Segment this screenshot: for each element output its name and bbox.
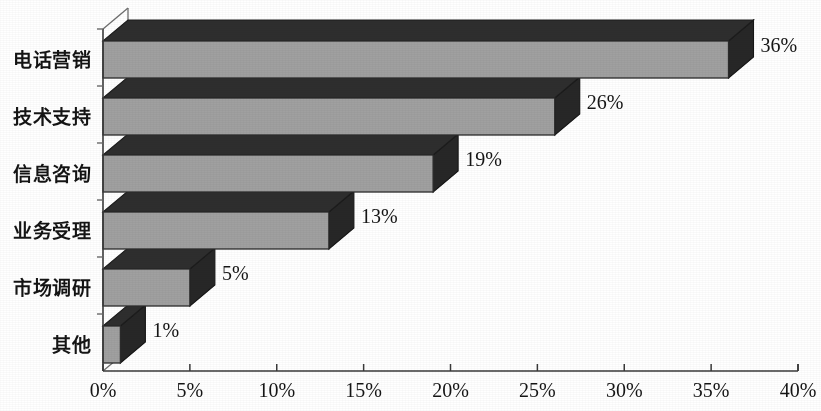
x-tick-label-5: 25% bbox=[519, 379, 556, 401]
value-label-0: 36% bbox=[761, 34, 798, 56]
bar-group bbox=[103, 134, 458, 192]
x-tick-label-6: 30% bbox=[606, 379, 643, 401]
chart-canvas: 电话营销技术支持信息咨询业务受理市场调研其他 36%26%19%13%5%1% … bbox=[0, 0, 821, 411]
category-label-0: 电话营销 bbox=[13, 49, 91, 71]
bar-top-face bbox=[103, 20, 754, 41]
value-label-3: 13% bbox=[361, 205, 398, 227]
bar-front-face bbox=[103, 155, 433, 192]
x-tick-label-0: 0% bbox=[90, 379, 117, 401]
category-label-4: 市场调研 bbox=[13, 277, 91, 299]
value-label-4: 5% bbox=[222, 262, 249, 284]
bar-group bbox=[103, 305, 145, 363]
bar-front-face bbox=[103, 269, 190, 306]
bar-group bbox=[103, 20, 754, 78]
category-label-2: 信息咨询 bbox=[13, 163, 91, 185]
x-tick-label-3: 15% bbox=[345, 379, 382, 401]
category-label-3: 业务受理 bbox=[13, 220, 91, 242]
x-tick-label-2: 10% bbox=[258, 379, 295, 401]
bar-group bbox=[103, 191, 354, 249]
bar-top-face bbox=[103, 134, 458, 155]
bars-layer bbox=[103, 20, 754, 363]
x-tick-label-7: 35% bbox=[693, 379, 730, 401]
value-label-5: 1% bbox=[152, 319, 179, 341]
bar-chart: 电话营销技术支持信息咨询业务受理市场调研其他 36%26%19%13%5%1% … bbox=[0, 0, 821, 411]
x-tick-labels: 0%5%10%15%20%25%30%35%40% bbox=[90, 379, 817, 401]
x-axis-ticks bbox=[103, 364, 798, 371]
category-labels: 电话营销技术支持信息咨询业务受理市场调研其他 bbox=[13, 49, 91, 356]
category-label-5: 其他 bbox=[52, 334, 91, 356]
bar-front-face bbox=[103, 326, 120, 363]
category-label-1: 技术支持 bbox=[13, 106, 91, 128]
bar-group bbox=[103, 77, 580, 135]
bar-group bbox=[103, 248, 215, 306]
bar-top-face bbox=[103, 191, 354, 212]
bar-front-face bbox=[103, 41, 729, 78]
y-axis-ticks bbox=[97, 29, 103, 314]
bar-top-face bbox=[103, 77, 580, 98]
value-label-1: 26% bbox=[587, 91, 624, 113]
x-tick-label-8: 40% bbox=[780, 379, 817, 401]
bar-front-face bbox=[103, 98, 555, 135]
x-tick-label-1: 5% bbox=[177, 379, 204, 401]
value-label-2: 19% bbox=[465, 148, 502, 170]
bar-front-face bbox=[103, 212, 329, 249]
x-tick-label-4: 20% bbox=[432, 379, 469, 401]
